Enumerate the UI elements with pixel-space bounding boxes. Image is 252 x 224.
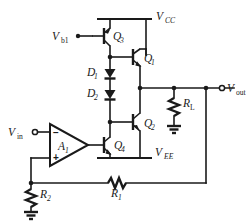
d1-triangle [105, 69, 116, 78]
d1-label-subscript: 1 [94, 72, 98, 81]
vcc-label-subscript: CC [165, 16, 176, 25]
q3-label-subscript: 3 [119, 36, 124, 45]
rl-label: R L [182, 97, 195, 112]
vee-label-subscript: EE [163, 152, 174, 161]
d1-label: D 1 [86, 66, 98, 81]
r1-label-text: R [110, 187, 118, 199]
output-bus [138, 85, 234, 90]
d2-label-subscript: 2 [94, 93, 98, 102]
vout-label: V out [227, 82, 247, 97]
resistor-rl [167, 88, 181, 133]
bias-node-lower [108, 120, 133, 137]
opamp-inverting-sign: − [53, 127, 59, 138]
vin-label-subscript: in [17, 132, 23, 141]
q2-label: Q 2 [144, 117, 155, 132]
r1-label-subscript: 1 [118, 193, 122, 202]
circuit-diagram: V CC Q 3 V b1 [0, 0, 252, 224]
vb1-junction-dot [76, 34, 80, 38]
schematic-canvas: V CC Q 3 V b1 [0, 0, 252, 224]
node-dot-output-stage [138, 86, 143, 91]
bias-node-upper [108, 55, 133, 60]
d2-label: D 2 [86, 87, 98, 102]
r2-label: R 2 [39, 188, 51, 203]
rl-label-subscript: L [190, 103, 195, 112]
rl-zigzag [169, 98, 179, 116]
feedback-to-opamp [31, 158, 50, 183]
d2-triangle [105, 90, 116, 99]
q2-label-subscript: 2 [151, 123, 155, 132]
diode-d2 [105, 90, 116, 122]
rl-label-text: R [182, 97, 190, 109]
opamp-noninverting-sign: + [53, 152, 59, 163]
vee-label: V EE [155, 146, 174, 161]
input-terminal-group: V in [8, 126, 50, 141]
transistor-q4 [88, 137, 112, 158]
opamp-label-subscript: 1 [65, 146, 69, 155]
vcc-label-text: V [156, 10, 165, 22]
resistor-r2 [24, 183, 38, 219]
q4-label: Q 4 [114, 139, 125, 154]
r2-label-subscript: 2 [47, 194, 51, 203]
q1-label-subscript: 1 [151, 58, 155, 67]
vee-label-text: V [155, 146, 164, 158]
opamp-a1: − + A 1 [50, 124, 88, 166]
vin-label-text: V [8, 126, 17, 138]
q4-label-subscript: 4 [121, 145, 125, 154]
transistor-q2 [133, 88, 140, 158]
r2-zigzag [26, 189, 36, 207]
vcc-label: V CC [156, 10, 176, 25]
ground-rl [167, 126, 181, 133]
vb1-label-text: V [52, 30, 61, 42]
r2-label-text: R [39, 188, 47, 200]
vout-label-subscript: out [236, 88, 247, 97]
q1-label: Q 1 [144, 52, 155, 67]
q3-label: Q 3 [113, 30, 124, 45]
transistor-q3 [92, 28, 111, 57]
vout-terminal-circle[interactable] [219, 85, 224, 90]
vb1-label-subscript: b1 [61, 36, 69, 45]
ground-r2 [24, 212, 38, 219]
bias-terminal-group: V b1 [52, 30, 92, 45]
r1-label: R 1 [110, 187, 122, 202]
q2-pnp-arrow [134, 125, 141, 132]
diode-d1 [105, 57, 116, 90]
